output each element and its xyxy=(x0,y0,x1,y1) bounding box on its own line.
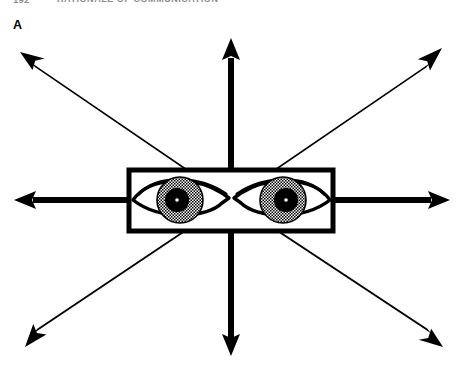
figure-svg xyxy=(0,0,463,371)
eye-left-highlight xyxy=(175,198,179,202)
radiating-gaze-diagram xyxy=(0,0,463,371)
eye-right-highlight xyxy=(284,198,288,202)
